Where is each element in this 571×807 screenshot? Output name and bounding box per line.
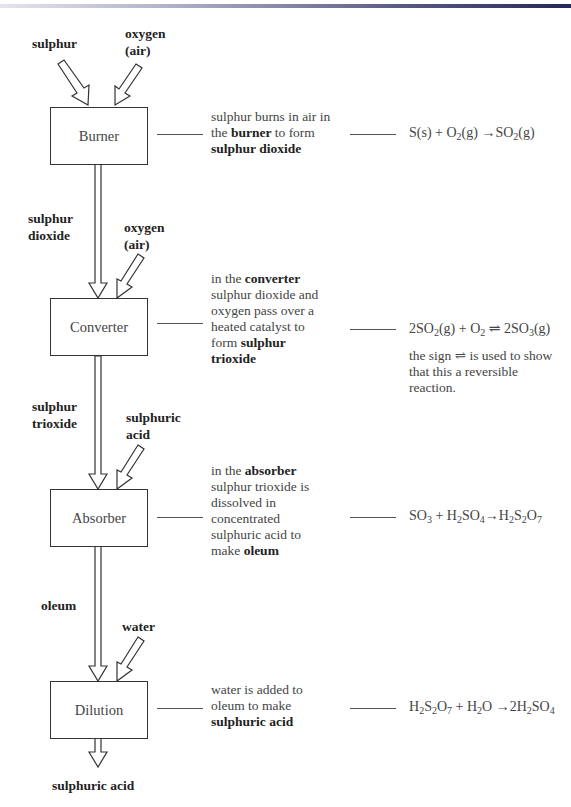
acid-input-arrow (117, 445, 144, 489)
absorber-description: in the absorber sulphur trioxide is diss… (211, 463, 346, 559)
water-input-arrow (117, 637, 144, 681)
connector-line (350, 329, 396, 330)
converter-description: in the converter sulphur dioxide and oxy… (211, 271, 346, 367)
burner-box: Burner (50, 107, 148, 165)
reversible-note: the sign ⇌ is used to show that this a r… (409, 348, 569, 396)
input-label-sulphur: sulphur (32, 35, 77, 52)
sulphur-input-arrow (58, 60, 89, 105)
absorber-box: Absorber (50, 489, 148, 547)
converter-label: Converter (70, 319, 128, 336)
input-label-oxygen-1: oxygen(air) (125, 25, 166, 59)
oxygen-input-arrow-2 (117, 254, 144, 298)
connector-line (350, 708, 396, 709)
dilution-description: water is added to oleum to make sulphuri… (211, 682, 346, 730)
connector-line (350, 517, 396, 518)
pipe-arrow-1 (89, 164, 107, 298)
flow-label-sulphur-trioxide: sulphurtrioxide (32, 398, 77, 432)
pipe-arrow-3 (89, 546, 107, 681)
connector-line (157, 323, 203, 324)
output-arrow (89, 738, 107, 767)
connector-line (157, 517, 203, 518)
absorber-label: Absorber (72, 510, 126, 527)
burner-equation: S(s) + O2(g) →SO2(g) (409, 125, 535, 142)
connector-line (350, 134, 396, 135)
converter-equation: 2SO2(g) + O2 ⇌ 2SO3(g) (409, 320, 550, 338)
burner-description: sulphur burns in air in the burner to fo… (211, 109, 346, 157)
input-label-sulphuric-acid: sulphuricacid (126, 409, 181, 443)
connector-line (157, 134, 203, 135)
dilution-label: Dilution (75, 702, 123, 719)
flow-label-sulphur-dioxide: sulphurdioxide (28, 210, 73, 244)
flow-label-oleum: oleum (41, 597, 76, 614)
pipe-arrow-2 (89, 356, 107, 489)
oxygen-input-arrow-1 (115, 64, 142, 105)
input-label-water: water (122, 618, 155, 635)
absorber-equation: SO3 + H2SO4→H2S2O7 (409, 508, 542, 525)
connector-line (157, 708, 203, 709)
output-label-sulphuric-acid: sulphuric acid (52, 777, 134, 794)
burner-label: Burner (79, 128, 119, 145)
converter-box: Converter (50, 298, 148, 356)
input-label-oxygen-2: oxygen(air) (124, 219, 165, 253)
dilution-box: Dilution (50, 681, 148, 739)
dilution-equation: H2S2O7 + H2O →2H2SO4 (409, 699, 555, 716)
